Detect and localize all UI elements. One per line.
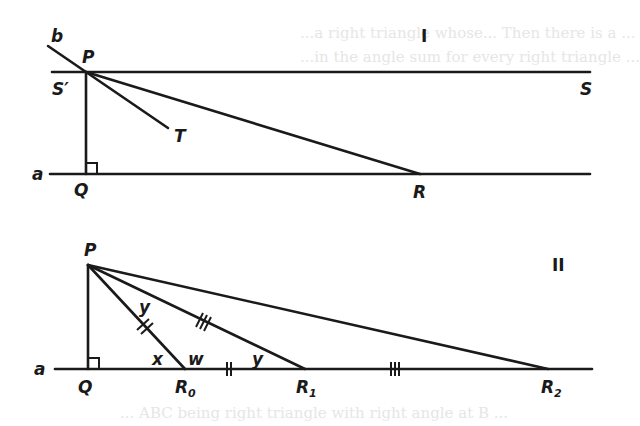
label-q: Q [74, 180, 88, 200]
segment-pr [86, 72, 420, 174]
label-t: T [174, 126, 187, 146]
label-angle-x: x [151, 349, 164, 369]
figure-1-numeral: I [421, 26, 427, 46]
right-angle-marker-2 [88, 358, 99, 369]
label-p: P [82, 47, 95, 67]
label-q-2: Q [78, 377, 92, 397]
label-a: a [32, 164, 43, 184]
tick-triple-pr1 [196, 313, 211, 331]
label-p-2: P [84, 240, 97, 260]
figure-2-numeral: II [552, 255, 565, 275]
label-r1: R1 [296, 377, 317, 400]
label-r: R [413, 182, 426, 202]
figure-2: II [34, 240, 592, 400]
label-s: S [580, 79, 592, 99]
segment-pr0 [88, 265, 185, 369]
label-a-2: a [34, 359, 45, 379]
label-r2: R2 [541, 377, 562, 400]
line-b [48, 46, 86, 72]
ray-pt [86, 72, 168, 128]
label-angle-y-bottom: y [252, 349, 264, 369]
right-angle-marker [86, 163, 97, 174]
figure-1: I b P S′ S T a Q R [32, 26, 592, 202]
label-angle-w: w [188, 349, 204, 369]
label-angle-y-top: y [139, 297, 151, 317]
label-s-prime: S′ [52, 79, 69, 99]
label-b: b [51, 26, 63, 46]
label-r0: R0 [175, 377, 196, 400]
